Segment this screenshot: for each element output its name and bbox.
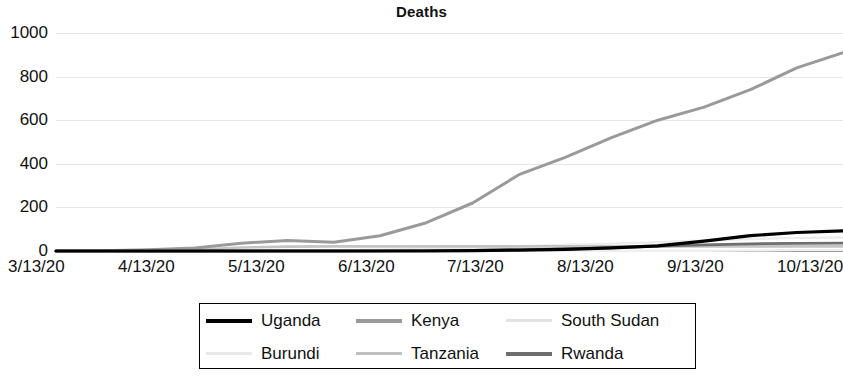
legend-swatch-icon	[356, 319, 402, 323]
legend-item-label: Tanzania	[411, 345, 479, 362]
legend-swatch-icon	[206, 352, 252, 355]
legend-swatch-icon	[356, 352, 402, 355]
legend-item-burundi[interactable]: Burundi	[206, 337, 356, 370]
legend-swatch-icon	[506, 352, 552, 356]
legend-item-label: Kenya	[411, 312, 459, 329]
legend-item-rwanda[interactable]: Rwanda	[506, 337, 699, 370]
chart-container: Deaths 02004006008001000 3/13/204/13/205…	[0, 0, 843, 378]
legend-item-uganda[interactable]: Uganda	[206, 304, 356, 337]
legend-item-label: Uganda	[261, 312, 321, 329]
legend-swatch-icon	[206, 319, 252, 323]
series-line-kenya	[56, 53, 843, 251]
legend-item-south-sudan[interactable]: South Sudan	[506, 304, 699, 337]
legend-item-tanzania[interactable]: Tanzania	[356, 337, 506, 370]
legend: UgandaKenyaSouth SudanBurundiTanzaniaRwa…	[199, 303, 696, 369]
legend-swatch-icon	[506, 319, 552, 322]
legend-item-label: Rwanda	[561, 345, 623, 362]
legend-item-kenya[interactable]: Kenya	[356, 304, 506, 337]
legend-item-label: Burundi	[261, 345, 320, 362]
series-lines	[0, 0, 843, 300]
legend-item-label: South Sudan	[561, 312, 659, 329]
